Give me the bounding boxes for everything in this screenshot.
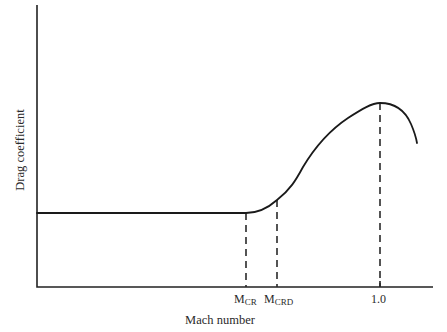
- x-tick-label-1-0: 1.0: [371, 292, 386, 306]
- x-tick-label-mcr: MCR: [234, 292, 257, 307]
- x-tick-label-mcrd: MCRD: [264, 292, 294, 307]
- y-axis-title: Drag coefficient: [13, 109, 27, 191]
- x-axis-title: Mach number: [185, 313, 256, 327]
- axes: [37, 5, 433, 287]
- drag-curve: [37, 103, 417, 213]
- chart-svg: MCR MCRD 1.0 Mach number Drag coefficien…: [0, 0, 447, 332]
- drag-vs-mach-chart: MCR MCRD 1.0 Mach number Drag coefficien…: [0, 0, 447, 332]
